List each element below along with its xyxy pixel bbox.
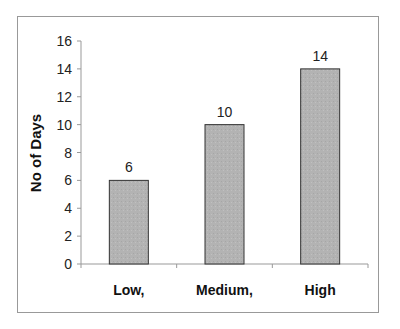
y-tick-label: 12 — [56, 89, 72, 105]
data-label: 6 — [125, 159, 133, 175]
y-tick-label: 0 — [64, 256, 72, 272]
y-tick-label: 6 — [64, 172, 72, 188]
bar-medium — [205, 125, 244, 264]
y-tick-label: 4 — [64, 200, 72, 216]
data-label: 10 — [217, 104, 233, 120]
y-tick-label: 8 — [64, 145, 72, 161]
category-label: Medium, — [196, 282, 253, 298]
y-tick-label: 2 — [64, 228, 72, 244]
y-axis-title: No of Days — [27, 114, 44, 192]
category-label: Low, — [113, 282, 144, 298]
y-tick-label: 16 — [56, 33, 72, 49]
category-label: High — [305, 282, 336, 298]
data-label: 14 — [312, 48, 328, 64]
y-tick-label: 10 — [56, 117, 72, 133]
y-tick-label: 14 — [56, 61, 72, 77]
bar-low — [109, 180, 148, 264]
bar-chart: 0246810121416 6Low,10Medium,14High No of… — [0, 0, 400, 329]
bar-high — [301, 69, 340, 264]
